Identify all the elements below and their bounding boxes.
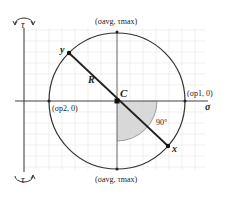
angle-sector — [117, 101, 157, 141]
tau-label-bottom: τ — [21, 174, 25, 185]
point-y-label: y — [59, 44, 65, 55]
right-dot — [184, 100, 187, 103]
top-dot — [116, 31, 119, 34]
right-point-label: (σp1, 0) — [187, 89, 213, 98]
point-x-label: x — [171, 143, 177, 154]
center-dot — [115, 99, 120, 104]
center-label: C — [120, 87, 128, 99]
angle-label: 90° — [156, 118, 167, 127]
mohr-circle-diagram: τ τ σ C R y x 90° (σavg, τmax) (σavg, τm… — [0, 0, 233, 200]
left-point-label: (σp2, 0) — [52, 104, 78, 113]
radius-label: R — [87, 74, 95, 85]
bottom-point-label: (σavg, τmax) — [95, 175, 138, 184]
diagram-canvas: τ τ σ C R y x 90° (σavg, τmax) (σavg, τm… — [0, 0, 233, 200]
point-y-dot — [67, 51, 71, 55]
left-dot — [48, 100, 51, 103]
bottom-dot — [116, 168, 119, 171]
tau-label-top: τ — [21, 19, 25, 30]
top-point-label: (σavg, τmax) — [95, 17, 138, 26]
point-x-dot — [166, 144, 170, 148]
sigma-label: σ — [205, 101, 211, 112]
